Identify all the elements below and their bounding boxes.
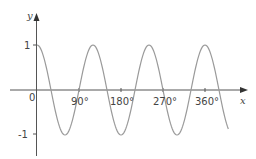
y-tick-label-1: 1	[24, 40, 30, 51]
x-tick-label-180: 180°	[110, 96, 134, 107]
x-axis-arrow-icon	[240, 87, 248, 93]
x-tick-label-90: 90°	[71, 96, 89, 107]
y-axis-arrow-icon	[34, 13, 40, 21]
y-axis-label: y	[26, 10, 33, 21]
x-tick-label-360: 360°	[195, 96, 219, 107]
x-tick-label-270: 270°	[153, 96, 177, 107]
x-axis-label: x	[240, 95, 246, 106]
cosine-graph: y x 0 1 -1 90° 180° 270° 360°	[0, 0, 256, 159]
y-tick-label-neg1: -1	[18, 129, 28, 140]
origin-label: 0	[29, 92, 35, 103]
